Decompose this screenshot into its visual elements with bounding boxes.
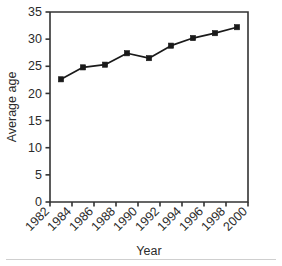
data-series bbox=[58, 25, 239, 82]
x-tick-label: 1986 bbox=[67, 204, 97, 234]
y-axis: 05101520253035 bbox=[28, 5, 50, 209]
x-tick-label: 1994 bbox=[155, 204, 185, 234]
data-point-marker bbox=[80, 65, 85, 70]
y-tick-label: 20 bbox=[28, 87, 42, 101]
x-tick-label: 1982 bbox=[23, 204, 53, 234]
x-tick-label: 1990 bbox=[111, 204, 141, 234]
data-point-marker bbox=[146, 56, 151, 61]
data-point-marker bbox=[190, 35, 195, 40]
data-point-marker bbox=[124, 51, 129, 56]
y-tick-label: 30 bbox=[28, 32, 42, 46]
x-tick-label: 2000 bbox=[221, 204, 251, 234]
line-chart: 05101520253035 1982198419861988199019921… bbox=[0, 0, 282, 266]
x-tick-label: 1998 bbox=[199, 204, 229, 234]
series-line bbox=[61, 27, 237, 79]
data-point-marker bbox=[234, 25, 239, 30]
data-point-marker bbox=[58, 77, 63, 82]
x-axis-title: Year bbox=[136, 244, 161, 258]
x-tick-label: 1996 bbox=[177, 204, 207, 234]
y-tick-label: 35 bbox=[28, 5, 42, 19]
bottom-divider bbox=[6, 259, 276, 260]
chart-container: 05101520253035 1982198419861988199019921… bbox=[0, 0, 282, 266]
plot-frame bbox=[50, 12, 248, 202]
x-tick-label: 1988 bbox=[89, 204, 119, 234]
y-tick-label: 10 bbox=[28, 141, 42, 155]
x-tick-label: 1984 bbox=[45, 204, 75, 234]
y-tick-label: 25 bbox=[28, 59, 42, 73]
y-tick-label: 15 bbox=[28, 114, 42, 128]
y-axis-title: Average age bbox=[5, 72, 19, 143]
x-axis: 1982198419861988199019921994199619982000 bbox=[23, 202, 251, 234]
y-tick-label: 5 bbox=[35, 168, 42, 182]
data-point-marker bbox=[102, 62, 107, 67]
plot-border bbox=[50, 12, 248, 202]
x-tick-label: 1992 bbox=[133, 204, 163, 234]
data-point-marker bbox=[212, 31, 217, 36]
data-point-marker bbox=[168, 43, 173, 48]
